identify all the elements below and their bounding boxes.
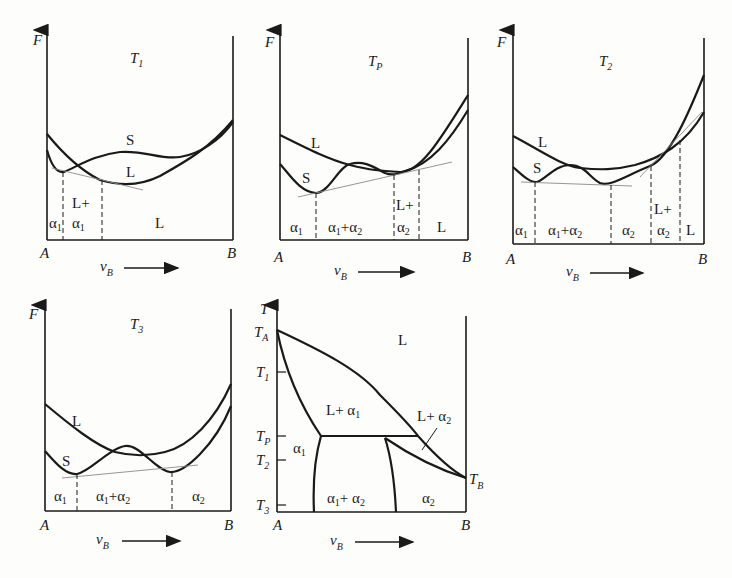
end-label-b: B	[227, 245, 236, 261]
region-l-alpha2: α2	[657, 222, 670, 240]
f-label: F	[496, 34, 507, 50]
region-alpha1: α1	[49, 215, 62, 233]
region-alpha2: α2	[622, 222, 635, 240]
s-curve	[513, 75, 704, 184]
x-label: νB	[334, 262, 347, 282]
tick-t2: T2	[256, 452, 269, 471]
region-alpha2: α2	[192, 488, 205, 506]
curve-label-l: L	[311, 135, 320, 151]
panel-tp: F TP L S α1 α1+α2 L+ α2 L A B νB	[264, 30, 471, 282]
end-label-a: A	[39, 245, 50, 261]
region-l-alpha1: L+ α1	[326, 402, 360, 420]
f-label: F	[32, 32, 43, 48]
x-label: νB	[96, 531, 109, 551]
region-alpha1-alpha2: α1+α2	[96, 488, 130, 506]
curve-label-s: S	[302, 170, 310, 186]
region-alpha1: α1	[54, 488, 67, 506]
region-l-alpha2: α2	[397, 219, 410, 237]
region-l-alpha1: α1	[72, 215, 85, 233]
curve-label-l: L	[126, 164, 135, 180]
panel-title: T2	[599, 53, 612, 72]
end-label-a: A	[273, 249, 284, 265]
curve-label-s: S	[126, 132, 134, 148]
x-label: νB	[100, 258, 113, 278]
tick-t1: T1	[256, 364, 269, 383]
t-label: T	[260, 301, 270, 317]
region-alpha2: α2	[422, 490, 435, 508]
solvus-alpha1-line	[314, 436, 321, 512]
region-l: L	[398, 332, 407, 348]
leader-line	[422, 428, 437, 450]
panel-t2: F T2 L S α1 α1+α2 α2 L+ α2 L A B νB	[496, 30, 707, 283]
f-label: F	[264, 34, 275, 50]
end-label-b: B	[462, 249, 471, 265]
region-alpha1: α1	[290, 219, 303, 237]
tick-ta: TA	[254, 324, 269, 343]
end-label-a: A	[505, 251, 516, 267]
end-label-a: A	[39, 517, 50, 533]
region-l-plus: L+	[72, 195, 90, 211]
region-l: L	[155, 215, 164, 231]
region-l-alpha2: L+ α2	[417, 408, 451, 426]
panel-title: T3	[130, 316, 143, 335]
x-label: νB	[566, 263, 579, 283]
solidus-alpha1-line	[277, 330, 321, 436]
panel-title: TP	[368, 53, 382, 72]
common-tangent-2	[640, 112, 702, 177]
end-label-a: A	[272, 517, 283, 533]
region-alpha1: α1	[515, 222, 528, 240]
l-curve	[280, 95, 468, 172]
curve-label-s: S	[62, 453, 70, 469]
region-alpha1: α1	[293, 440, 306, 458]
region-l-plus: L+	[396, 197, 414, 213]
tick-tp: TP	[256, 428, 270, 447]
region-l: L	[686, 222, 695, 238]
tb-label: TB	[469, 471, 483, 491]
figure: F T1 S L α1 L+ α1 L A B νB F TP L S α1 α…	[0, 0, 732, 578]
x-label: νB	[330, 532, 343, 552]
tick-t3: T3	[256, 497, 269, 516]
end-label-b: B	[698, 251, 707, 267]
region-l-plus: L+	[654, 201, 672, 217]
region-alpha1-alpha2: α1+α2	[548, 222, 582, 240]
curve-label-s: S	[533, 160, 541, 176]
panel-phase-diagram: T TA T1 TP T2 T3 L L+ α1 L+ α2 α1 α1+ α2…	[254, 301, 483, 552]
panel-t1: F T1 S L α1 L+ α1 L A B νB	[32, 30, 236, 278]
region-alpha1-alpha2: α1+α2	[328, 219, 362, 237]
region-l: L	[437, 219, 446, 235]
common-tangent-1	[521, 182, 632, 186]
f-label: F	[28, 306, 39, 322]
region-alpha1-alpha2: α1+ α2	[327, 490, 365, 508]
panel-t3: F T3 L S α1 α1+α2 α2 A B νB	[28, 305, 233, 551]
curve-label-l: L	[538, 134, 547, 150]
curve-label-l: L	[72, 413, 81, 429]
end-label-b: B	[461, 517, 470, 533]
panel-title: T1	[130, 50, 143, 69]
end-label-b: B	[224, 517, 233, 533]
solvus-alpha2-line	[385, 438, 396, 512]
